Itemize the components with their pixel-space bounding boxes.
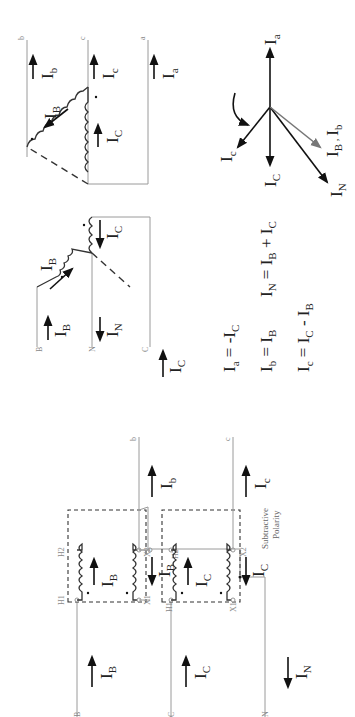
T2-secondary-coil bbox=[227, 544, 233, 600]
polarity-note-line1: Subtractive bbox=[260, 508, 270, 549]
equation-Ia: Ia = -IC bbox=[220, 325, 241, 372]
T2-secondary-polarity-dot bbox=[220, 592, 222, 594]
T2-H1-label: H1 bbox=[165, 602, 174, 612]
T1-H2-label: H2 bbox=[57, 547, 66, 557]
T2-H2-label: H2 bbox=[171, 549, 180, 559]
transformer-T2: H1 H2 X1 X2 IC IC bbox=[162, 510, 270, 612]
line-C-label: C bbox=[167, 712, 176, 717]
line-N-label: N bbox=[261, 711, 270, 717]
transformer-T1: H1 H2 X1 X2 IB IB bbox=[57, 510, 176, 605]
wye-section: B N C IB IB IC IN IC bbox=[35, 217, 187, 377]
Ib-label: Ib bbox=[157, 477, 178, 489]
wye-A-open-leg bbox=[92, 253, 130, 287]
T1-primary-coil bbox=[77, 544, 82, 600]
T1-secondary-polarity-dot bbox=[126, 592, 128, 594]
T2-X1-label: X1 bbox=[229, 602, 238, 612]
delta-Ib-label: Ib bbox=[38, 67, 59, 79]
polarity-note-line2: Polarity bbox=[271, 510, 281, 539]
X2-X1-jumper bbox=[139, 507, 148, 550]
equations: Ia = -IC Ib = IB Ic = IC - IB IN = IB + … bbox=[220, 221, 315, 372]
rotation-direction-arrow-icon bbox=[233, 93, 248, 125]
line-b-label: b bbox=[129, 437, 138, 441]
T1-secondary-coil bbox=[133, 544, 139, 600]
delta-Ic-label: Ic bbox=[99, 68, 120, 79]
IN-label: IN bbox=[292, 665, 313, 679]
T1-primary-current-label: IB bbox=[98, 574, 119, 587]
delta-section: b c a IB IC Ib Ic Ia bbox=[17, 36, 180, 184]
T2-X2-label: X2 bbox=[239, 547, 248, 557]
delta-B-polarity-dot bbox=[31, 138, 33, 140]
transformer-bank: B C N IB IC IN H1 H2 X1 X2 bbox=[57, 437, 313, 717]
phasor-diagram: Ia Ic IC IN IB , Ib bbox=[217, 34, 348, 197]
IC-primary-label: IC bbox=[191, 666, 212, 679]
phasor-Ic-label: Ic bbox=[217, 151, 238, 162]
delta-A-open-leg bbox=[27, 147, 88, 184]
wye-IB-line-label: IB bbox=[51, 324, 72, 337]
phasor-Ic bbox=[238, 107, 270, 147]
T2-primary-polarity-dot bbox=[181, 592, 183, 594]
delta-Ia-label: Ia bbox=[159, 68, 180, 79]
T2-primary-current-label: IC bbox=[192, 574, 213, 587]
equation-Ib: Ib = IB bbox=[257, 330, 278, 372]
equation-IN: IN = IB + IC bbox=[257, 221, 278, 297]
delta-IC-label: IC bbox=[103, 130, 124, 143]
line-B-label: B bbox=[73, 712, 82, 717]
wye-C-polarity-dot bbox=[83, 224, 85, 226]
IB-primary-label: IB bbox=[97, 666, 118, 679]
delta-line-a-label: a bbox=[138, 36, 147, 40]
diagram-stage: B C N IB IC IN H1 H2 X1 X2 bbox=[0, 0, 355, 717]
delta-line-b-label: b bbox=[17, 36, 26, 40]
wye-C-winding bbox=[89, 217, 92, 253]
transformer-connection-diagram: B C N IB IC IN H1 H2 X1 X2 bbox=[0, 0, 355, 717]
T1-H1-label: H1 bbox=[57, 595, 66, 605]
delta-line-c-label: c bbox=[78, 36, 87, 40]
phasor-IN bbox=[270, 107, 327, 182]
phasor-IB-Ib-label: IB , Ib bbox=[323, 124, 344, 157]
wye-line-B-label: B bbox=[35, 347, 44, 352]
wye-IN-label: IN bbox=[103, 323, 124, 337]
Ic-label: Ic bbox=[251, 478, 272, 489]
T1-enclosure bbox=[68, 510, 146, 602]
T2-secondary-current-label: IC bbox=[249, 564, 270, 577]
phasor-IC-label: IC bbox=[261, 174, 282, 187]
wye-IC-line-label: IC bbox=[166, 360, 187, 373]
T1-primary-polarity-dot bbox=[87, 592, 89, 594]
phasor-Ia-label: Ia bbox=[261, 34, 282, 45]
wye-IC-winding-label: IC bbox=[103, 226, 124, 239]
line-c-label: c bbox=[223, 437, 232, 441]
phasor-IN-label: IN bbox=[327, 183, 348, 197]
wye-line-C-label: C bbox=[141, 347, 150, 352]
delta-IB-label: IB bbox=[41, 106, 62, 119]
delta-C-polarity-dot bbox=[95, 96, 97, 98]
wye-IB-winding-label: IB bbox=[37, 258, 58, 271]
equation-Ic: Ic = IC - IB bbox=[294, 303, 315, 372]
